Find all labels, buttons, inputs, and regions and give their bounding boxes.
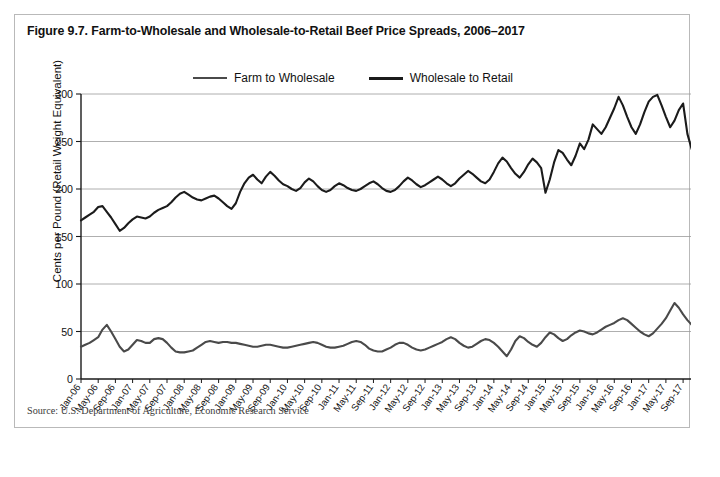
y-tick-label: 150 [55,231,73,243]
source-note: Source: U.S. Department of Agriculture, … [27,405,309,416]
y-tick-label: 50 [61,326,73,338]
y-tick-label: 200 [55,183,73,195]
series-line-wholesale-to-retail [81,95,691,231]
chart-svg: 050100150200250300Jan-06May-06Sep-06Jan-… [15,15,691,429]
y-tick-label: 100 [55,278,73,290]
y-tick-label: 250 [55,136,73,148]
figure-card: Figure 9.7. Farm-to-Wholesale and Wholes… [14,14,690,428]
plot-area: Cents per Pound (Retail Weight Equivalen… [15,15,691,429]
series-line-farm-to-wholesale [81,303,691,356]
y-tick-label: 300 [55,88,73,100]
